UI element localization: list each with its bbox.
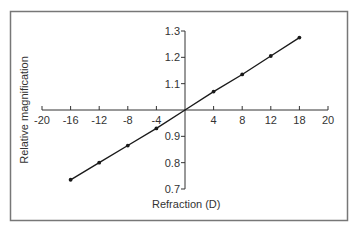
x-tick-label: 20 (322, 114, 334, 126)
data-point-marker (240, 73, 244, 77)
data-point-marker (126, 144, 130, 148)
data-point-marker (212, 90, 216, 94)
chart: -20-16-12-8-448121820 1.31.21.10.90.80.7… (0, 0, 355, 230)
x-tick-label: -16 (63, 114, 79, 126)
y-tick-label: 0.8 (165, 157, 180, 169)
y-tick-label: 0.7 (165, 183, 180, 195)
y-tick-label: 1.1 (165, 78, 180, 90)
y-tick-label: 1.3 (165, 25, 180, 37)
y-tick-label: 0.9 (165, 130, 180, 142)
x-tick-label: 4 (211, 114, 217, 126)
x-tick-label: -8 (123, 114, 133, 126)
data-point-marker (69, 178, 73, 182)
x-tick-label: 8 (239, 114, 245, 126)
x-axis-title: Refraction (D) (152, 198, 220, 210)
x-tick-label: -20 (34, 114, 50, 126)
y-tick-label: 1.2 (165, 51, 180, 63)
x-tick-label: -4 (152, 114, 162, 126)
x-tick-label: -12 (91, 114, 107, 126)
data-point-marker (298, 36, 302, 40)
x-tick-label: 12 (265, 114, 277, 126)
data-point-marker (269, 54, 273, 58)
data-point-marker (97, 161, 101, 165)
x-tick-label: 18 (293, 114, 305, 126)
data-point-marker (155, 127, 159, 131)
y-axis-title: Relative magnification (18, 56, 30, 164)
